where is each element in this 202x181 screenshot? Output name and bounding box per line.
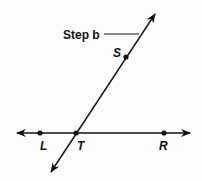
diagram-svg: Step b S L T R	[0, 0, 202, 181]
point-L-label: L	[40, 139, 47, 153]
point-T	[73, 130, 78, 135]
step-b-label: Step b	[63, 28, 100, 42]
point-S	[123, 54, 128, 59]
point-S-label: S	[113, 46, 121, 60]
point-R-label: R	[159, 139, 168, 153]
point-T-label: T	[77, 139, 86, 153]
point-R	[161, 130, 166, 135]
point-L	[37, 130, 42, 135]
geometry-diagram: Step b S L T R	[0, 0, 202, 181]
